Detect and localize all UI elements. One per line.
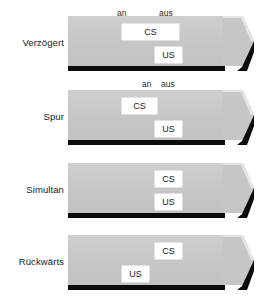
cs-box-simultan: CS [155, 171, 182, 187]
row-label-verzoegert: Verzögert [0, 37, 64, 48]
timeline-arrowhead-icon [223, 85, 254, 145]
conditioning-timeline-diagram: VerzögertanausCSUSSpuranausCSUSSimultanC… [0, 0, 277, 305]
timeline-baseline [68, 285, 225, 290]
timeline-arrowhead-icon [223, 230, 254, 290]
cs-box-rueckwaerts: CS [155, 243, 182, 259]
row-label-rueckwaerts: Rückwärts [0, 256, 64, 267]
timeline-baseline [68, 213, 225, 218]
row-label-spur: Spur [0, 111, 64, 122]
tick-aus-verzoegert: aus [159, 8, 173, 18]
cs-box-verzoegert: CS [122, 24, 179, 40]
timeline-baseline [68, 66, 225, 71]
us-box-spur: US [155, 121, 182, 137]
us-box-rueckwaerts: US [122, 266, 149, 282]
us-box-verzoegert: US [155, 47, 182, 63]
us-box-simultan: US [155, 194, 182, 210]
tick-aus-spur: aus [161, 79, 175, 89]
tick-an-verzoegert: an [117, 8, 126, 18]
timeline-arrowhead-icon [223, 11, 254, 71]
cs-box-spur: CS [122, 98, 157, 114]
timeline-baseline [68, 140, 225, 145]
tick-an-spur: an [142, 79, 151, 89]
timeline-bar-body [68, 163, 225, 213]
timeline-arrowhead-icon [223, 158, 254, 218]
row-label-simultan: Simultan [0, 184, 64, 195]
